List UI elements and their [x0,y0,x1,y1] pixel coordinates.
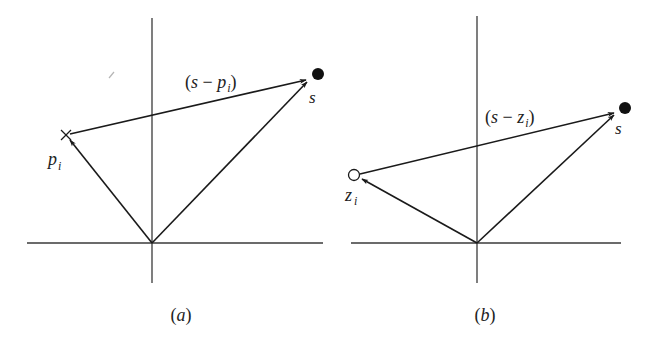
label-zero-var: z [344,185,352,205]
diagram-canvas: s pi (s − pi) (a) s zi (s − zi) (b [0,0,655,345]
label-s-var-b: s [491,107,498,127]
label-zero: zi [344,185,357,208]
label-s-a: s [309,88,316,107]
label-diff-var-b: z [516,107,524,127]
vector-origin-to-s-a [152,82,307,243]
label-minus-b: − [498,107,517,127]
label-s-minus-zero: (s − zi) [485,107,535,130]
label-pole-var: p [46,149,57,169]
point-s-filled-circle-icon [619,102,631,114]
label-pole-sub: i [58,159,61,173]
label-paren-close-b: ) [529,107,535,128]
label-zero-sub: i [354,194,357,208]
label-paren-close-a: ) [231,72,237,93]
label-minus-a: − [198,72,217,92]
label-s-b: s [615,119,622,138]
label-s-minus-pole: (s − pi) [185,72,237,95]
vector-origin-to-zero [362,179,477,243]
point-s-filled-circle-icon [312,68,324,80]
panel-b: s zi (s − zi) (b) [344,16,631,326]
label-pole: pi [46,149,61,173]
label-diff-var-a: p [215,72,226,92]
scan-artifact [109,72,114,78]
panel-a: s pi (s − pi) (a) [27,18,324,326]
caption-a: (a) [171,305,192,326]
vector-origin-to-s-b [477,115,614,243]
vector-origin-to-pole [70,140,152,243]
pole-cross-icon [61,130,71,140]
label-s-var-a: s [191,72,198,92]
vector-diagram-figure: s pi (s − pi) (a) s zi (s − zi) (b [0,0,655,345]
zero-open-circle-icon [349,170,360,181]
caption-b: (b) [475,305,496,326]
